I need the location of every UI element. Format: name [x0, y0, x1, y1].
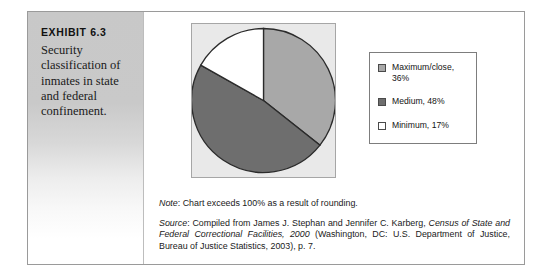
notes-block: Note: Chart exceeds 100% as a result of … [159, 198, 510, 252]
chart-region: Maximum/close, 36% Medium, 48% Minimum, … [145, 12, 524, 187]
pie-chart-svg [192, 24, 335, 177]
legend-label-minimum: Minimum, 17% [392, 120, 449, 131]
note-lead-label: Note [159, 198, 178, 208]
chart-legend: Maximum/close, 36% Medium, 48% Minimum, … [369, 52, 477, 144]
legend-item-maximum-close: Maximum/close, 36% [378, 62, 470, 83]
swatch-maximum-close-icon [378, 64, 386, 72]
legend-label-maximum-close: Maximum/close, 36% [392, 62, 470, 83]
exhibit-frame: EXHIBIT 6.3 Security classification of i… [27, 11, 525, 265]
exhibit-caption-text: Security classification of inmates in st… [41, 43, 131, 119]
swatch-medium-icon [378, 98, 386, 106]
exhibit-number-label: EXHIBIT 6.3 [41, 26, 131, 38]
note-text: : Chart exceeds 100% as a result of roun… [178, 198, 358, 208]
swatch-minimum-icon [378, 122, 386, 130]
source-lead-label: Source [159, 218, 187, 228]
pie-chart-plot-area [191, 23, 336, 178]
source-text-part1: : Compiled from James J. Stephan and Jen… [187, 218, 428, 228]
legend-label-medium: Medium, 48% [392, 96, 445, 107]
caption-sidebar: EXHIBIT 6.3 Security classification of i… [28, 12, 144, 264]
legend-item-minimum: Minimum, 17% [378, 120, 470, 131]
chart-note: Note: Chart exceeds 100% as a result of … [159, 198, 510, 209]
chart-source: Source: Compiled from James J. Stephan a… [159, 218, 510, 252]
legend-item-medium: Medium, 48% [378, 96, 470, 107]
